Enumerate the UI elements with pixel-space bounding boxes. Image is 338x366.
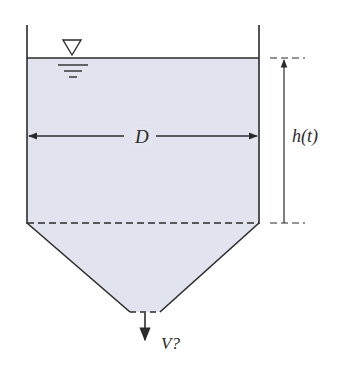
diameter-label: D bbox=[132, 127, 152, 146]
liquid-fill bbox=[27, 58, 259, 312]
outflow-velocity-label: V? bbox=[161, 335, 180, 352]
height-label: h(t) bbox=[292, 127, 318, 145]
tank-diagram bbox=[0, 0, 338, 366]
